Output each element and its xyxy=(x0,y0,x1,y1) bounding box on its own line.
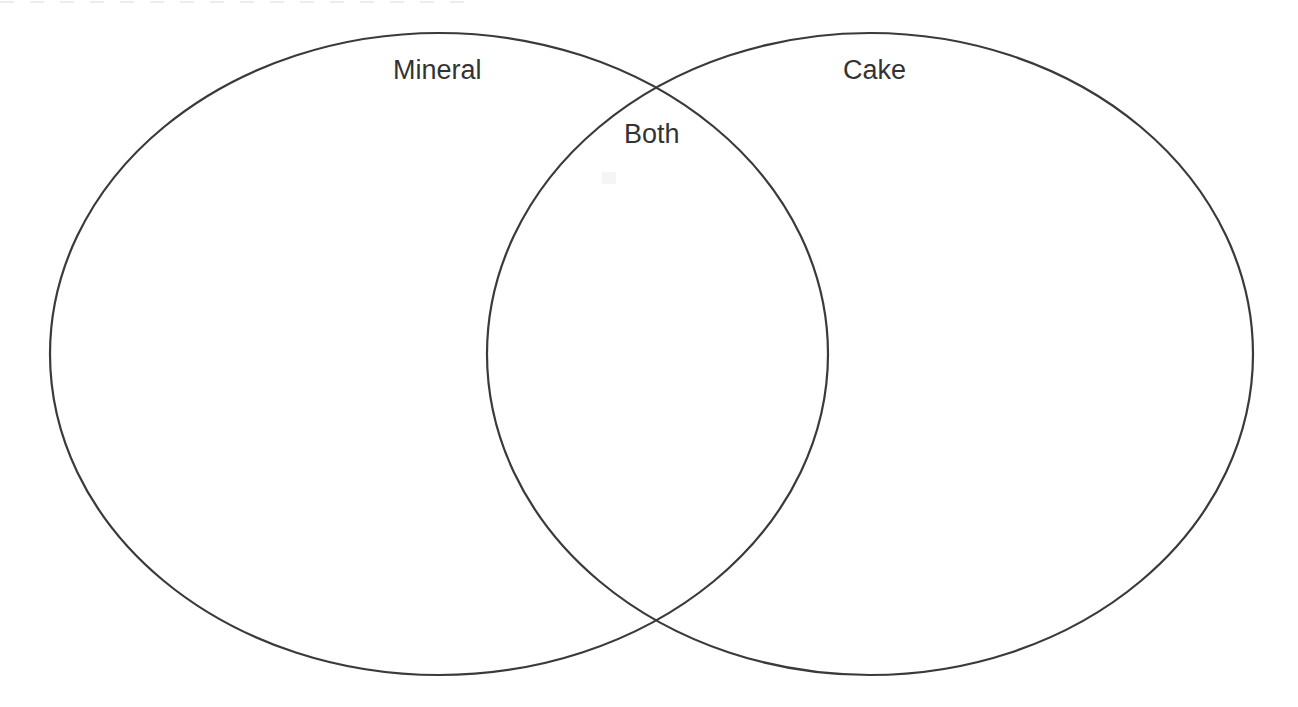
venn-label-right-set: Cake xyxy=(843,57,906,84)
venn-diagram-canvas: Mineral Both Cake xyxy=(0,0,1298,707)
venn-circle-left[interactable] xyxy=(50,33,828,675)
venn-circle-right[interactable] xyxy=(487,33,1253,675)
venn-label-left-set: Mineral xyxy=(393,57,482,84)
venn-diagram-shapes xyxy=(0,0,1298,707)
venn-label-intersection: Both xyxy=(624,121,680,148)
